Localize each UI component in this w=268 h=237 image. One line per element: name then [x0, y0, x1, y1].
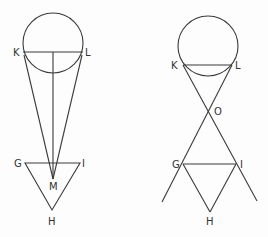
label-g: G [14, 158, 22, 169]
label-o: O [214, 106, 222, 117]
label-l: L [235, 60, 241, 71]
left-ray-l [53, 55, 82, 179]
right-figure [162, 16, 257, 212]
right-line-ih [210, 164, 236, 212]
label-k: K [171, 60, 178, 71]
label-g: G [172, 159, 180, 170]
optics-diagram: K L G I M H K L O G I H [0, 0, 268, 237]
right-line-gh [183, 164, 210, 212]
label-h: H [206, 216, 214, 227]
label-l: L [85, 47, 91, 58]
right-ray-l [162, 65, 232, 202]
label-i: I [82, 158, 85, 169]
label-m: M [49, 181, 58, 192]
left-ray-k [24, 55, 53, 179]
right-ray-k [183, 65, 257, 201]
label-k: K [13, 47, 20, 58]
label-h: H [48, 216, 56, 227]
label-i: I [240, 159, 243, 170]
right-labels: K L O G I H [171, 60, 243, 227]
right-circle [178, 16, 238, 76]
diagram-canvas: K L G I M H K L O G I H [0, 0, 268, 237]
left-labels: K L G I M H [13, 47, 91, 227]
